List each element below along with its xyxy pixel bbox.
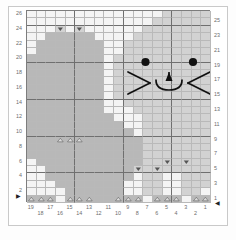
grid-cell[interactable] (201, 129, 211, 136)
grid-cell[interactable] (143, 26, 153, 33)
grid-cell[interactable] (75, 151, 85, 158)
grid-cell[interactable] (134, 77, 144, 84)
grid-cell[interactable] (124, 11, 134, 18)
grid-cell[interactable] (114, 33, 124, 40)
grid-cell[interactable] (124, 173, 134, 180)
grid-cell[interactable] (182, 151, 192, 158)
grid-cell[interactable] (192, 26, 202, 33)
grid-cell[interactable] (134, 144, 144, 151)
grid-cell[interactable] (46, 159, 56, 166)
grid-cell[interactable] (163, 196, 173, 203)
grid-cell[interactable] (46, 55, 56, 62)
grid-cell[interactable] (163, 26, 173, 33)
grid-cell[interactable] (104, 11, 114, 18)
grid-cell[interactable] (46, 48, 56, 55)
grid-cell[interactable] (104, 77, 114, 84)
grid-cell[interactable] (163, 48, 173, 55)
grid-cell[interactable] (56, 26, 66, 33)
grid-cell[interactable] (75, 181, 85, 188)
grid-cell[interactable] (163, 33, 173, 40)
grid-cell[interactable] (46, 11, 56, 18)
grid-cell[interactable] (95, 18, 105, 25)
grid-cell[interactable] (201, 85, 211, 92)
grid-cell[interactable] (75, 48, 85, 55)
grid-cell[interactable] (124, 144, 134, 151)
grid-cell[interactable] (143, 11, 153, 18)
grid-cell[interactable] (163, 129, 173, 136)
grid-cell[interactable] (56, 114, 66, 121)
grid-cell[interactable] (66, 100, 76, 107)
grid-cell[interactable] (85, 196, 95, 203)
grid-cell[interactable] (124, 159, 134, 166)
grid-cell[interactable] (85, 18, 95, 25)
grid-cell[interactable] (95, 77, 105, 84)
grid-cell[interactable] (192, 33, 202, 40)
grid-cell[interactable] (182, 137, 192, 144)
grid-cell[interactable] (163, 100, 173, 107)
grid-cell[interactable] (192, 122, 202, 129)
grid-cell[interactable] (182, 41, 192, 48)
grid-cell[interactable] (153, 18, 163, 25)
grid-cell[interactable] (46, 151, 56, 158)
grid-cell[interactable] (85, 92, 95, 99)
grid-cell[interactable] (114, 137, 124, 144)
grid-cell[interactable] (192, 114, 202, 121)
grid-cell[interactable] (153, 129, 163, 136)
grid-cell[interactable] (56, 151, 66, 158)
grid-cell[interactable] (37, 92, 47, 99)
grid-cell[interactable] (46, 129, 56, 136)
grid-cell[interactable] (37, 181, 47, 188)
grid-cell[interactable] (95, 48, 105, 55)
grid-cell[interactable] (95, 11, 105, 18)
grid-cell[interactable] (27, 196, 37, 203)
grid-cell[interactable] (143, 196, 153, 203)
grid-cell[interactable] (172, 92, 182, 99)
grid-cell[interactable] (85, 11, 95, 18)
grid-cell[interactable] (163, 144, 173, 151)
grid-cell[interactable] (75, 137, 85, 144)
grid-cell[interactable] (66, 151, 76, 158)
grid-cell[interactable] (134, 18, 144, 25)
grid-cell[interactable] (85, 107, 95, 114)
grid-cell[interactable] (163, 55, 173, 62)
grid-cell[interactable] (134, 114, 144, 121)
grid-cell[interactable] (114, 41, 124, 48)
grid-cell[interactable] (192, 181, 202, 188)
grid-cell[interactable] (172, 70, 182, 77)
grid-cell[interactable] (66, 159, 76, 166)
grid-cell[interactable] (153, 11, 163, 18)
grid-cell[interactable] (163, 41, 173, 48)
grid-cell[interactable] (201, 77, 211, 84)
grid-cell[interactable] (104, 114, 114, 121)
grid-cell[interactable] (95, 107, 105, 114)
grid-cell[interactable] (27, 18, 37, 25)
grid-cell[interactable] (201, 114, 211, 121)
grid-cell[interactable] (104, 92, 114, 99)
grid-cell[interactable] (46, 173, 56, 180)
grid-cell[interactable] (201, 151, 211, 158)
grid-cell[interactable] (46, 137, 56, 144)
grid-cell[interactable] (143, 173, 153, 180)
grid-cell[interactable] (66, 41, 76, 48)
grid-cell[interactable] (192, 173, 202, 180)
grid-cell[interactable] (172, 166, 182, 173)
grid-cell[interactable] (95, 173, 105, 180)
grid-cell[interactable] (66, 77, 76, 84)
grid-cell[interactable] (134, 151, 144, 158)
grid-cell[interactable] (114, 77, 124, 84)
grid-cell[interactable] (75, 70, 85, 77)
grid-cell[interactable] (192, 129, 202, 136)
grid-cell[interactable] (134, 48, 144, 55)
grid-cell[interactable] (182, 166, 192, 173)
grid-cell[interactable] (143, 18, 153, 25)
grid-cell[interactable] (192, 11, 202, 18)
grid-cell[interactable] (182, 181, 192, 188)
grid-cell[interactable] (56, 77, 66, 84)
grid-cell[interactable] (66, 122, 76, 129)
grid-cell[interactable] (56, 92, 66, 99)
grid-cell[interactable] (124, 129, 134, 136)
grid-cell[interactable] (172, 41, 182, 48)
grid-cell[interactable] (201, 100, 211, 107)
grid-cell[interactable] (163, 70, 173, 77)
grid-cell[interactable] (104, 55, 114, 62)
